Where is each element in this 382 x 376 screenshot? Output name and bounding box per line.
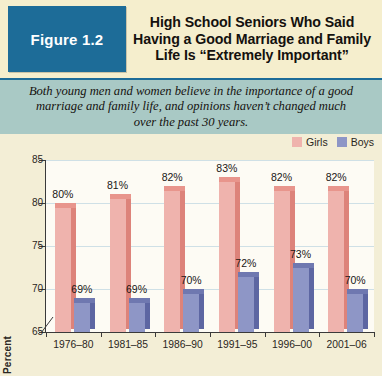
x-axis-tick-label: 1991–95 bbox=[206, 339, 268, 350]
bar-top-face bbox=[55, 203, 76, 208]
gridline bbox=[46, 160, 374, 161]
y-axis-tick-label: 65 bbox=[3, 326, 43, 337]
x-axis-tick bbox=[319, 332, 320, 337]
title-line-1: High School Seniors Who Said bbox=[150, 14, 355, 31]
x-axis-tick-label: 1986–90 bbox=[152, 339, 214, 350]
y-axis-line bbox=[45, 160, 46, 333]
bar-front-face bbox=[274, 189, 290, 332]
bar-value-label: 70% bbox=[339, 274, 371, 286]
bar-top-face bbox=[164, 186, 185, 191]
bar-side-face bbox=[309, 263, 314, 329]
x-axis-tick bbox=[374, 332, 375, 337]
bar-front-face bbox=[328, 189, 344, 332]
title-line-2: Having a Good Marriage and Family bbox=[133, 31, 371, 48]
bar-front-face bbox=[347, 292, 363, 332]
plot-area: 80%69%81%69%82%70%83%72%82%73%82%70% bbox=[46, 160, 374, 332]
bar-girls-2001–06[interactable] bbox=[328, 186, 344, 332]
legend-swatch-girls bbox=[292, 137, 302, 147]
bar-value-label: 73% bbox=[285, 248, 317, 260]
y-axis-tick-label: 70 bbox=[3, 283, 43, 294]
bar-side-face bbox=[254, 272, 259, 329]
bar-girls-1986–90[interactable] bbox=[164, 186, 180, 332]
bar-top-face bbox=[328, 186, 349, 191]
bar-front-face bbox=[110, 197, 126, 332]
bar-side-face bbox=[199, 289, 204, 329]
legend-label-boys: Boys bbox=[351, 136, 374, 148]
legend-item-boys: Boys bbox=[337, 136, 374, 148]
bar-value-label: 81% bbox=[102, 179, 134, 191]
legend-swatch-boys bbox=[337, 137, 347, 147]
y-axis-tick-label: 80 bbox=[3, 197, 43, 208]
bar-front-face bbox=[55, 206, 71, 332]
figure-number-label: Figure 1.2 bbox=[31, 31, 104, 48]
figure-number-badge: Figure 1.2 bbox=[8, 6, 126, 72]
title-line-3: Life Is “Extremely Important” bbox=[155, 47, 348, 64]
figure-header: Figure 1.2 High School Seniors Who Said … bbox=[0, 0, 382, 78]
bar-value-label: 70% bbox=[175, 274, 207, 286]
bar-front-face bbox=[129, 301, 145, 332]
bar-top-face bbox=[293, 263, 314, 268]
bar-top-face bbox=[183, 289, 204, 294]
bar-front-face bbox=[74, 301, 90, 332]
y-axis-tick-label: 75 bbox=[3, 240, 43, 251]
bar-front-face bbox=[183, 292, 199, 332]
bar-top-face bbox=[347, 289, 368, 294]
x-axis-tick-label: 1981–85 bbox=[97, 339, 159, 350]
bar-front-face bbox=[293, 266, 309, 332]
gridline bbox=[46, 203, 374, 204]
bar-value-label: 82% bbox=[320, 171, 352, 183]
x-axis-tick bbox=[101, 332, 102, 337]
bar-value-label: 69% bbox=[121, 283, 153, 295]
bar-girls-1981–85[interactable] bbox=[110, 194, 126, 332]
bar-top-face bbox=[238, 272, 259, 277]
bar-boys-1991–95[interactable] bbox=[238, 272, 254, 332]
bar-girls-1976–80[interactable] bbox=[55, 203, 71, 332]
bar-top-face bbox=[110, 194, 131, 199]
x-axis-tick bbox=[210, 332, 211, 337]
x-axis-tick-label: 1996–00 bbox=[261, 339, 323, 350]
bar-girls-1991–95[interactable] bbox=[219, 177, 235, 332]
legend-item-girls: Girls bbox=[292, 136, 328, 148]
subtitle-line-1: Both young men and women believe in the … bbox=[29, 84, 353, 99]
y-axis-title: Percent bbox=[2, 336, 13, 374]
figure-subtitle: Both young men and women believe in the … bbox=[0, 78, 382, 134]
bar-boys-2001–06[interactable] bbox=[347, 289, 363, 332]
bar-top-face bbox=[129, 298, 150, 303]
x-axis-tick-label: 2001–06 bbox=[316, 339, 378, 350]
bar-top-face bbox=[274, 186, 295, 191]
figure-title: High School Seniors Who Said Having a Go… bbox=[126, 0, 382, 78]
bar-top-face bbox=[74, 298, 95, 303]
bar-front-face bbox=[164, 189, 180, 332]
x-axis-tick bbox=[46, 332, 47, 337]
legend-label-girls: Girls bbox=[306, 136, 328, 148]
subtitle-line-2: marriage and family life, and opinions h… bbox=[36, 99, 346, 114]
bar-side-face bbox=[363, 289, 368, 329]
y-axis-tick-label: 85 bbox=[3, 154, 43, 165]
bar-value-label: 83% bbox=[211, 162, 243, 174]
bar-boys-1986–90[interactable] bbox=[183, 289, 199, 332]
bar-value-label: 69% bbox=[66, 283, 98, 295]
x-axis-tick bbox=[265, 332, 266, 337]
bar-value-label: 82% bbox=[266, 171, 298, 183]
bar-front-face bbox=[238, 275, 254, 332]
gridline bbox=[46, 246, 374, 247]
bar-value-label: 80% bbox=[47, 188, 79, 200]
bar-boys-1996–00[interactable] bbox=[293, 263, 309, 332]
subtitle-line-3: over the past 30 years. bbox=[134, 115, 248, 130]
bar-value-label: 72% bbox=[230, 257, 262, 269]
bar-boys-1976–80[interactable] bbox=[74, 298, 90, 332]
bar-boys-1981–85[interactable] bbox=[129, 298, 145, 332]
x-axis-tick bbox=[155, 332, 156, 337]
bar-value-label: 82% bbox=[156, 171, 188, 183]
bar-chart: Percent 80%69%81%69%82%70%83%72%82%73%82… bbox=[0, 152, 382, 376]
chart-legend: Girls Boys bbox=[292, 136, 374, 148]
x-axis-tick-label: 1976–80 bbox=[42, 339, 104, 350]
bar-top-face bbox=[219, 177, 240, 182]
